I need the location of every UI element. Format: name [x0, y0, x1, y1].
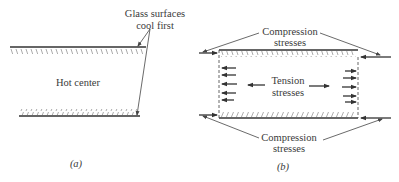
compression-top-label-line2: stresses [274, 37, 306, 48]
caption-a: (a) [70, 158, 83, 170]
compression-bottom-label-line2: stresses [273, 143, 305, 154]
surfaces-label-line2: cool first [136, 20, 174, 31]
bottom-surface [19, 109, 140, 116]
glass-tempering-diagram: Glass surfaces cool first Hot center (a) [0, 0, 399, 182]
caption-b: (b) [277, 161, 290, 173]
bottom-surface-b [219, 111, 358, 118]
compression-bottom-label-line1: Compression [261, 132, 317, 143]
tension-label-line1: Tension [271, 75, 305, 86]
tension-label-line2: stresses [272, 87, 304, 98]
tension-arrows-right [342, 71, 356, 102]
top-surface [10, 47, 146, 54]
panel-a: Glass surfaces cool first Hot center (a) [10, 8, 185, 170]
compression-top-label-line1: Compression [262, 26, 318, 37]
panel-b: Compression stresses Tension stresses Co… [199, 26, 391, 173]
tension-arrows-left [222, 68, 237, 100]
top-surface-b [219, 50, 358, 57]
hot-center-label: Hot center [56, 77, 101, 88]
leader-lines [137, 29, 150, 115]
surfaces-label-line1: Glass surfaces [125, 8, 185, 19]
